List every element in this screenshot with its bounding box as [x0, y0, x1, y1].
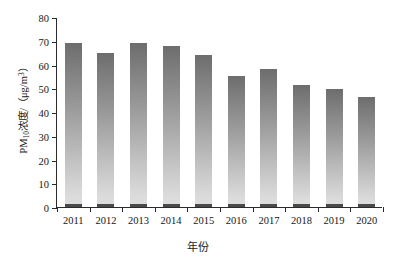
y-axis-tick: 80 [52, 18, 57, 19]
x-axis-tick [57, 207, 58, 212]
x-axis-tick [350, 207, 351, 212]
bar-base-band [163, 204, 180, 207]
bar [228, 76, 245, 207]
y-axis-title-suffix: ） [18, 62, 29, 72]
bar-base-band [195, 204, 212, 207]
bar-base-band [97, 204, 114, 207]
y-axis-tick: 10 [52, 184, 57, 185]
bar [293, 85, 310, 207]
y-axis-tick-label: 80 [39, 11, 50, 27]
y-axis-tick-label: 40 [39, 106, 50, 122]
x-axis-tick [220, 207, 221, 212]
y-axis-title-superscript: 3 [17, 72, 26, 76]
bar-base-band [228, 204, 245, 207]
bar-base-band [293, 204, 310, 207]
bar [97, 53, 114, 207]
bar [65, 43, 82, 207]
y-axis-title-prefix: PM [18, 138, 29, 153]
x-axis-tick [90, 207, 91, 212]
x-axis-tick [318, 207, 319, 212]
y-axis-title-middle: 浓度/（μg/m [18, 76, 29, 131]
bar [130, 43, 147, 207]
bar-base-band [260, 204, 277, 207]
x-axis-tick [155, 207, 156, 212]
x-axis-tick [253, 207, 254, 212]
x-axis-tick [285, 207, 286, 212]
y-axis-tick-label: 0 [44, 201, 49, 217]
y-axis-tick: 30 [52, 137, 57, 138]
y-axis-tick-label: 60 [39, 59, 50, 75]
y-axis-title-subscript: 10 [22, 131, 31, 139]
bar-base-band [130, 204, 147, 207]
y-axis-tick-label: 70 [39, 35, 50, 51]
y-axis-tick-label: 50 [39, 82, 50, 98]
bar [195, 55, 212, 207]
x-axis-tick [187, 207, 188, 212]
bar-base-band [358, 204, 375, 207]
bar-base-band [326, 204, 343, 207]
y-axis-tick: 70 [52, 42, 57, 43]
x-axis-tick [383, 207, 384, 212]
y-axis-tick-label: 10 [39, 177, 50, 193]
y-axis-tick: 20 [52, 161, 57, 162]
y-axis-tick: 50 [52, 89, 57, 90]
y-axis-tick-label: 30 [39, 130, 50, 146]
bar [260, 69, 277, 207]
y-axis-tick: 40 [52, 113, 57, 114]
bar-base-band [65, 204, 82, 207]
plot-area: 01020304050607080 2011201220132014201520… [56, 18, 382, 208]
bar [358, 97, 375, 207]
y-axis-tick-label: 20 [39, 154, 50, 170]
pm10-bar-chart: PM10浓度/（μg/m3） 01020304050607080 2011201… [0, 0, 396, 268]
x-axis-title: 年份 [0, 240, 396, 254]
x-axis-tick [122, 207, 123, 212]
x-axis-tick-label: 2020 [347, 214, 387, 227]
bar [326, 89, 343, 207]
y-axis-tick: 60 [52, 66, 57, 67]
y-axis-title: PM10浓度/（μg/m3） [14, 8, 30, 208]
bar [163, 46, 180, 208]
